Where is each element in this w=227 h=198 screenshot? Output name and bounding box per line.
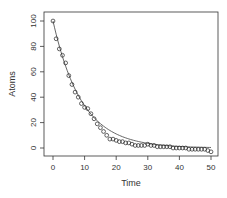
plot-area: 020406080100 01020304050 Time Atoms <box>0 0 227 198</box>
decay-chart: 020406080100 01020304050 Time Atoms <box>0 0 227 198</box>
y-tick-label: 80 <box>29 41 38 50</box>
y-tick-label: 0 <box>29 145 38 150</box>
data-point <box>95 122 99 126</box>
y-tick-label: 60 <box>29 67 38 76</box>
x-tick-label: 50 <box>207 163 216 172</box>
x-tick-label: 40 <box>175 163 184 172</box>
y-axis: 020406080100 <box>29 14 44 150</box>
fit-curve <box>53 21 211 147</box>
x-axis: 01020304050 <box>51 156 216 172</box>
x-tick-label: 10 <box>80 163 89 172</box>
y-tick-label: 100 <box>29 14 38 28</box>
data-point <box>105 133 109 137</box>
y-tick-label: 40 <box>29 92 38 101</box>
x-tick-label: 0 <box>51 163 56 172</box>
data-point <box>102 130 106 134</box>
data-point <box>99 126 103 130</box>
x-axis-label: Time <box>121 178 141 188</box>
data-points <box>51 19 213 154</box>
x-tick-label: 20 <box>112 163 121 172</box>
y-axis-label: Atoms <box>7 71 17 97</box>
x-tick-label: 30 <box>143 163 152 172</box>
y-tick-label: 20 <box>29 118 38 127</box>
